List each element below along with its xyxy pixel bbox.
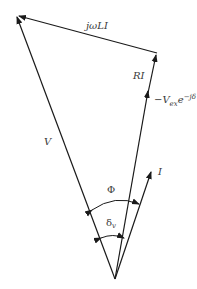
delta-label: δv (106, 217, 116, 230)
jwli-label: jωLI (84, 20, 109, 31)
vex-vector (115, 91, 148, 279)
phasor-diagram: jωLI RI V −Vexe−jδ I Φ δv (0, 0, 197, 289)
vex-label: −Vexe−jδ (154, 93, 196, 108)
i-label: I (157, 166, 163, 177)
phi-label: Φ (107, 184, 115, 195)
delta-sub: v (112, 222, 116, 230)
delta-angle-arc (101, 236, 124, 239)
ri-label: RI (132, 70, 146, 81)
i-vector (115, 172, 151, 279)
v-label: V (44, 136, 53, 147)
phi-angle-arc (92, 200, 139, 210)
vex-sub: ex (170, 100, 178, 108)
ri-vector (148, 55, 156, 93)
v-vector (17, 17, 115, 279)
vex-sup: −jδ (184, 93, 196, 101)
